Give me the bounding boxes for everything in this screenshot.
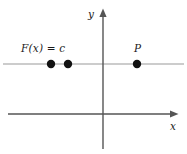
x-axis-label: x	[170, 121, 176, 132]
level-set-point	[64, 60, 72, 68]
y-axis-label: y	[88, 9, 94, 20]
point-p-label: P	[134, 43, 141, 54]
figure-canvas	[0, 0, 187, 154]
x-axis-arrow-icon	[170, 110, 179, 117]
level-set-figure: F(x) = c P y x	[0, 0, 187, 154]
y-axis-arrow-icon	[99, 9, 106, 18]
point-p-marker	[133, 60, 141, 68]
level-set-label: F(x) = c	[21, 43, 65, 54]
level-set-point	[47, 60, 55, 68]
